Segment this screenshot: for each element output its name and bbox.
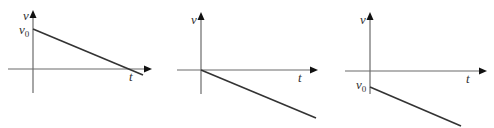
v0-label: v0 (356, 77, 367, 94)
y-axis-arrow-icon (198, 12, 205, 20)
x-axis-arrow-icon (479, 68, 487, 75)
x-axis-label: t (466, 71, 470, 86)
x-axis-label: t (129, 69, 133, 84)
graphs-canvas: vtv0vtvtv0 (0, 0, 494, 128)
y-axis-arrow-icon (30, 10, 37, 18)
x-axis-label: t (298, 70, 302, 85)
y-axis-label: v (23, 8, 29, 23)
y-axis-label: v (360, 12, 366, 27)
graph-2: vt (177, 12, 318, 118)
x-axis-arrow-icon (144, 66, 152, 73)
velocity-line (370, 87, 461, 126)
graph-3: vtv0 (345, 12, 487, 126)
y-axis-label: v (191, 12, 197, 27)
v0-label: v0 (19, 22, 30, 39)
x-axis-arrow-icon (310, 67, 318, 74)
y-axis-arrow-icon (367, 12, 374, 20)
velocity-time-graphs: vtv0vtvtv0 (0, 0, 494, 128)
velocity-line (33, 29, 143, 75)
graph-1: vtv0 (8, 8, 152, 93)
